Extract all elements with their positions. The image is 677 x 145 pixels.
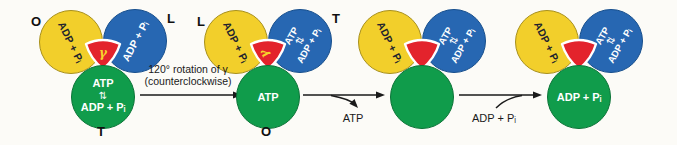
beta-subunit-content: ATP [257,91,278,103]
beta-subunit-bottom: ADP + Pᵢ [547,65,611,129]
enzyme-state-4: ADP + Pᵢ ATP ⇅ ADP + Pᵢ ADP + Pᵢ [503,0,653,145]
beta-subunit-content: ADP + Pᵢ [221,20,251,65]
beta-subunit-content: ADP + Pᵢ [119,19,150,64]
conformation-label-open: O [31,14,41,29]
conformation-label-tight: T [332,11,340,26]
rotation-arrow-label-line2: (counterclockwise) [145,75,232,87]
beta-subunit-content: ADP + Pᵢ [557,91,601,103]
conformation-label-loose: L [167,11,175,26]
adp-pi-binding-label: ADP + Pᵢ [472,112,516,124]
atp-release-label: ATP [343,112,364,124]
gamma-subunit-label: γ [99,46,107,60]
rotation-arrow-label-line1: 120° rotation of γ [148,63,228,75]
equilibrium-arrows: ⇅ [81,91,125,101]
beta-subunit-content: ATP ⇅ ADP + Pᵢ [81,77,125,113]
beta-subunit-content: ADP + Pᵢ [532,20,562,65]
green-line-adp-pi: ADP + Pᵢ [81,101,125,114]
green-line-atp: ATP [81,77,125,90]
conformation-label-loose: L [197,14,205,29]
atp-synthase-binding-change-mechanism-figure: ADP + Pᵢ ADP + Pᵢ γ ATP ⇅ ADP + Pᵢ O L T… [0,0,677,145]
beta-subunit-bottom: ATP ⇅ ADP + Pᵢ [71,65,135,129]
conformation-label-open: O [261,124,271,139]
beta-subunit-bottom: ATP [236,65,300,129]
conformation-label-tight: T [97,124,105,139]
beta-subunit-content: ADP + Pᵢ [375,20,405,65]
beta-subunit-content: ADP + Pᵢ [56,20,86,65]
beta-subunit-bottom-empty [390,65,454,129]
